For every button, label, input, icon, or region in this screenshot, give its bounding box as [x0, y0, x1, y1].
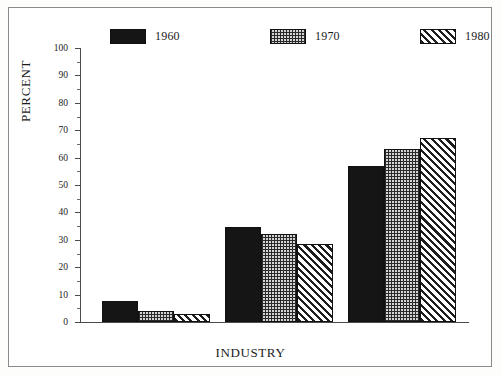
y-tick-90: 90 [75, 75, 80, 76]
bar-services-1980 [420, 138, 456, 322]
y-tick-minor-5 [77, 308, 80, 309]
y-tick-minor-75 [77, 117, 80, 118]
y-tick-label-70: 70 [59, 125, 69, 135]
y-tick-label-20: 20 [59, 262, 69, 272]
y-tick-50: 50 [75, 185, 80, 186]
y-tick-70: 70 [75, 130, 80, 131]
y-tick-20: 20 [75, 267, 80, 268]
y-tick-30: 30 [75, 240, 80, 241]
bar-transformative-1970 [261, 234, 297, 322]
y-tick-minor-15 [77, 281, 80, 282]
y-tick-label-100: 100 [54, 43, 68, 53]
y-tick-minor-25 [77, 254, 80, 255]
chart-figure: 196019701980 PERCENT INDUSTRY 0102030405… [0, 0, 501, 376]
y-tick-10: 10 [75, 295, 80, 296]
y-tick-60: 60 [75, 158, 80, 159]
y-tick-minor-55 [77, 171, 80, 172]
y-tick-40: 40 [75, 212, 80, 213]
x-axis-title: INDUSTRY [0, 345, 501, 361]
y-tick-100: 100 [75, 48, 80, 49]
bar-transformative-1960 [225, 227, 261, 322]
y-tick-minor-95 [77, 62, 80, 63]
y-tick-label-60: 60 [59, 153, 69, 163]
y-tick-minor-65 [77, 144, 80, 145]
y-tick-0: 0 [75, 322, 80, 323]
legend-swatch-1960 [110, 29, 146, 44]
y-tick-minor-85 [77, 89, 80, 90]
y-tick-label-90: 90 [59, 70, 69, 80]
bar-extractive-1960 [102, 301, 138, 322]
bar-services-1960 [348, 166, 384, 322]
y-tick-minor-45 [77, 199, 80, 200]
legend-entry-1970: 1970 [270, 26, 340, 48]
plot-area: 0102030405060708090100ExtractiveTransfor… [80, 48, 468, 322]
bar-extractive-1980 [174, 314, 210, 322]
y-tick-label-30: 30 [59, 235, 69, 245]
y-tick-label-50: 50 [59, 180, 69, 190]
y-axis-title: PERCENT [18, 60, 34, 122]
y-tick-minor-35 [77, 226, 80, 227]
y-tick-label-0: 0 [63, 317, 68, 327]
chart-legend: 196019701980 [110, 26, 450, 48]
bar-transformative-1980 [297, 244, 333, 322]
legend-swatch-1970 [270, 29, 306, 44]
x-axis-line [80, 322, 469, 323]
legend-label-1980: 1980 [465, 29, 490, 44]
y-tick-80: 80 [75, 103, 80, 104]
legend-swatch-1980 [420, 29, 456, 44]
bar-extractive-1970 [138, 311, 174, 322]
legend-entry-1980: 1980 [420, 26, 490, 48]
y-tick-label-80: 80 [59, 98, 69, 108]
legend-label-1970: 1970 [315, 29, 340, 44]
bar-services-1970 [384, 149, 420, 322]
legend-entry-1960: 1960 [110, 26, 180, 48]
legend-label-1960: 1960 [155, 29, 180, 44]
y-tick-label-10: 10 [59, 290, 69, 300]
y-tick-label-40: 40 [59, 207, 69, 217]
